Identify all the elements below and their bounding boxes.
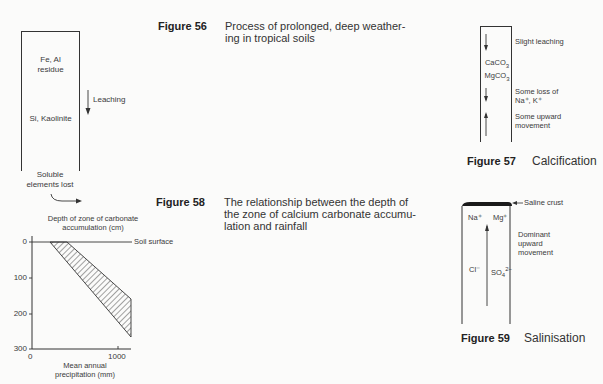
fig59-movement-label: Dominant upward movement bbox=[518, 230, 553, 257]
ion-so4: SO42− bbox=[491, 265, 512, 280]
so4-text: SO bbox=[491, 268, 502, 277]
fig59-caption: Salinisation bbox=[524, 332, 585, 344]
saline-crust bbox=[462, 202, 512, 206]
so4-superscript: 2− bbox=[505, 266, 512, 272]
movement-line2: upward bbox=[518, 239, 553, 248]
fig59-label: Figure 59 bbox=[461, 332, 510, 344]
ion-mg: Mg⁺ bbox=[493, 213, 507, 222]
crust-pointer-arrow-icon bbox=[512, 201, 523, 205]
movement-line1: Dominant bbox=[518, 230, 553, 239]
ion-na: Na⁺ bbox=[468, 213, 482, 222]
fig59-graphics bbox=[0, 0, 603, 384]
ion-cl: Cl⁻ bbox=[469, 265, 480, 274]
movement-line3: movement bbox=[518, 248, 553, 257]
saline-crust-label: Saline crust bbox=[524, 198, 563, 207]
so4-subscript: 4 bbox=[502, 272, 505, 278]
up-arrow-icon bbox=[485, 224, 489, 306]
